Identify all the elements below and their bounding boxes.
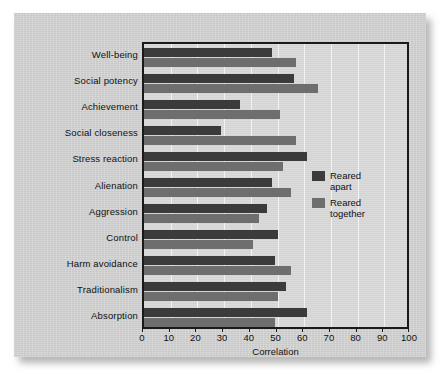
x-tick-label: 30 [217, 332, 228, 343]
x-tick-label: 100 [401, 332, 417, 343]
bar-reared-apart [144, 204, 267, 213]
category-label: Achievement [16, 101, 138, 112]
bar-reared-together [144, 266, 291, 275]
legend-item[interactable]: Reared apart [312, 170, 404, 192]
bar-reared-together [144, 84, 318, 93]
bar-reared-apart [144, 74, 294, 83]
category-label: Aggression [16, 206, 138, 217]
x-axis-ticks: 0102030405060708090100 [142, 329, 409, 345]
category-label: Social potency [16, 75, 138, 86]
x-tick-label: 0 [139, 332, 144, 343]
bar-reared-together [144, 214, 259, 223]
bar-reared-apart [144, 152, 307, 161]
bar-chart-figure: Well-beingSocial potencyAchievementSocia… [0, 0, 446, 379]
bar-reared-together [144, 240, 253, 249]
category-label: Stress reaction [16, 153, 138, 164]
chart-legend: Reared apartReared together [312, 170, 404, 224]
category-label: Traditionalism [16, 284, 138, 295]
bar-reared-apart [144, 178, 272, 187]
bar-reared-together [144, 292, 278, 301]
bar-reared-together [144, 58, 296, 67]
x-tick-label: 50 [270, 332, 281, 343]
bar-reared-together [144, 136, 296, 145]
category-label: Harm avoidance [16, 258, 138, 269]
x-tick-label: 70 [324, 332, 335, 343]
x-tick-label: 60 [297, 332, 308, 343]
category-label: Social closeness [16, 127, 138, 138]
legend-item[interactable]: Reared together [312, 197, 404, 219]
x-tick-label: 10 [163, 332, 174, 343]
x-tick-label: 20 [190, 332, 201, 343]
bar-reared-apart [144, 308, 307, 317]
bar-reared-together [144, 318, 275, 327]
category-axis-labels: Well-beingSocial potencyAchievementSocia… [14, 42, 138, 329]
bar-reared-apart [144, 48, 272, 57]
bar-reared-apart [144, 126, 221, 135]
x-tick-label: 80 [350, 332, 361, 343]
legend-swatch-icon [312, 171, 325, 181]
legend-label: Reared apart [330, 170, 361, 192]
bar-reared-apart [144, 230, 278, 239]
bar-reared-together [144, 188, 291, 197]
chart-card: Well-beingSocial potencyAchievementSocia… [14, 13, 426, 357]
bar-reared-apart [144, 100, 240, 109]
x-axis-title: Correlation [142, 346, 409, 357]
legend-swatch-icon [312, 198, 325, 208]
category-label: Well-being [16, 49, 138, 60]
bar-reared-apart [144, 256, 275, 265]
bar-reared-together [144, 162, 283, 171]
category-label: Absorption [16, 310, 138, 321]
category-label: Control [16, 232, 138, 243]
x-tick-label: 90 [377, 332, 388, 343]
category-label: Alienation [16, 180, 138, 191]
x-tick-label: 40 [244, 332, 255, 343]
legend-label: Reared together [330, 197, 365, 219]
bar-reared-together [144, 110, 280, 119]
bar-reared-apart [144, 282, 286, 291]
